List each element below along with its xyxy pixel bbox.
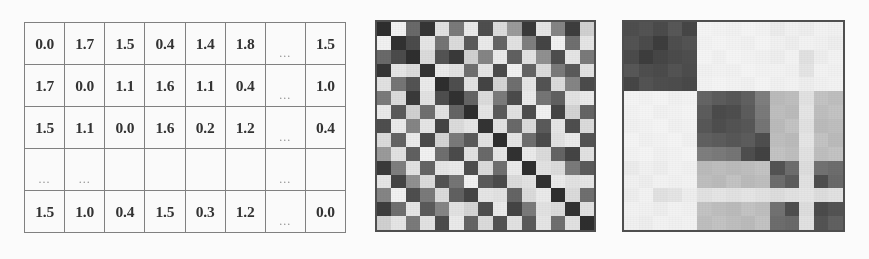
heatmap-cell: [828, 188, 843, 202]
heatmap-cell: [799, 50, 814, 64]
heatmap-cell: [522, 22, 536, 36]
heatmap-cell: [814, 77, 829, 91]
heatmap-cell: [770, 175, 785, 189]
heatmap-cell: [814, 175, 829, 189]
heatmap-cell: [785, 147, 800, 161]
heatmap-cell: [464, 91, 478, 105]
heatmap-cell: [507, 161, 521, 175]
heatmap-cell: [435, 50, 449, 64]
heatmap-cell: [478, 77, 492, 91]
heatmap-cell: [478, 188, 492, 202]
heatmap-cell: [551, 105, 565, 119]
heatmap-cell: [507, 22, 521, 36]
heatmap-cell: [391, 64, 405, 78]
heatmap-cell: [478, 36, 492, 50]
heatmap-cell: [755, 216, 770, 230]
heatmap-cell: [653, 22, 668, 36]
heatmap-cell: [522, 161, 536, 175]
heatmap-cell: [391, 77, 405, 91]
heatmap-cell: [449, 133, 463, 147]
heatmap-cell: [755, 188, 770, 202]
heatmap-cell: [391, 133, 405, 147]
heatmap-cell: [420, 77, 434, 91]
heatmap-cell: [668, 147, 683, 161]
heatmap-cell: [668, 77, 683, 91]
heatmap-cell: [580, 105, 594, 119]
heatmap-cell: [391, 91, 405, 105]
heatmap-cell: [420, 36, 434, 50]
heatmap-cell: [668, 22, 683, 36]
heatmap-cell: [755, 91, 770, 105]
heatmap-cell: [741, 188, 756, 202]
heatmap-cell: [697, 77, 712, 91]
heatmap-cell: [755, 202, 770, 216]
heatmap-cell: [551, 175, 565, 189]
heatmap-cell: [799, 119, 814, 133]
heatmap-cell: [785, 188, 800, 202]
heatmap-cell: [828, 175, 843, 189]
heatmap-cell: [814, 64, 829, 78]
matrix-cell: 0.4: [305, 107, 345, 149]
heatmap-cell: [420, 119, 434, 133]
heatmap-cell: [741, 147, 756, 161]
heatmap-cell: [726, 105, 741, 119]
heatmap-cell: [639, 133, 654, 147]
heatmap-cell: [464, 161, 478, 175]
heatmap-cell: [624, 188, 639, 202]
heatmap-cell: [449, 119, 463, 133]
heatmap-cell: [449, 161, 463, 175]
heatmap-cell: [770, 133, 785, 147]
heatmap-cell: [770, 161, 785, 175]
heatmap-cell: [639, 64, 654, 78]
heatmap-cell: [799, 64, 814, 78]
heatmap-cell: [580, 216, 594, 230]
heatmap-cell: [639, 216, 654, 230]
heatmap-cell: [741, 133, 756, 147]
heatmap-cell: [507, 175, 521, 189]
matrix-cell: ...: [265, 191, 305, 233]
heatmap-cell: [624, 64, 639, 78]
unsorted-distance-heatmap: [375, 20, 596, 232]
heatmap-cell: [668, 91, 683, 105]
heatmap-cell: [828, 91, 843, 105]
heatmap-cell: [726, 202, 741, 216]
matrix-cell: 1.5: [305, 23, 345, 65]
heatmap-cell: [420, 175, 434, 189]
heatmap-cell: [478, 119, 492, 133]
heatmap-cell: [624, 161, 639, 175]
heatmap-cell: [536, 77, 550, 91]
heatmap-cell: [536, 161, 550, 175]
heatmap-cell: [668, 175, 683, 189]
heatmap-cell: [420, 188, 434, 202]
heatmap-cell: [799, 147, 814, 161]
heatmap-cell: [551, 36, 565, 50]
matrix-cell: 0.0: [105, 107, 145, 149]
heatmap-cell: [420, 216, 434, 230]
heatmap-cell: [377, 161, 391, 175]
matrix-cell: [305, 149, 345, 191]
heatmap-cell: [770, 22, 785, 36]
matrix-cell: [105, 149, 145, 191]
heatmap-cell: [580, 22, 594, 36]
heatmap-cell: [536, 64, 550, 78]
heatmap-cell: [755, 105, 770, 119]
heatmap-cell: [814, 161, 829, 175]
heatmap-cell: [682, 105, 697, 119]
heatmap-cell: [449, 202, 463, 216]
heatmap-cell: [799, 91, 814, 105]
heatmap-cell: [668, 105, 683, 119]
heatmap-cell: [536, 147, 550, 161]
heatmap-cell: [785, 64, 800, 78]
heatmap-cell: [770, 50, 785, 64]
heatmap-cell: [565, 50, 579, 64]
heatmap-cell: [741, 175, 756, 189]
heatmap-cell: [668, 216, 683, 230]
heatmap-cell: [464, 50, 478, 64]
heatmap-cell: [799, 188, 814, 202]
heatmap-cell: [799, 77, 814, 91]
heatmap-cell: [565, 22, 579, 36]
matrix-cell: 1.1: [185, 65, 225, 107]
heatmap-cell: [624, 22, 639, 36]
heatmap-cell: [785, 161, 800, 175]
heatmap-cell: [785, 91, 800, 105]
